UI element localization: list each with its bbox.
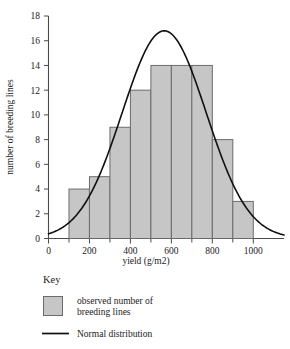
legend-swatch-observed [44,297,63,316]
histogram-figure: 024681012141618 02004006008001000 yield … [0,0,290,349]
legend-label-observed-line2: breeding lines [77,307,131,317]
histogram-bar [130,90,150,238]
chart-canvas: 024681012141618 02004006008001000 yield … [0,0,290,349]
legend-title: Key [43,274,61,285]
y-tick-label: 8 [35,135,40,145]
legend-label-normal: Normal distribution [77,329,152,339]
histogram-bar [69,189,89,238]
histogram-bar [89,177,109,239]
y-tick-label: 12 [31,86,41,96]
y-tick-label: 14 [31,61,41,71]
y-tick-label: 18 [31,11,41,21]
y-tick-label: 16 [31,36,41,46]
y-tick-label: 4 [35,184,40,194]
histogram-bar [110,127,130,238]
y-tick-label: 2 [35,209,40,219]
x-tick-label: 400 [123,246,138,256]
x-tick-label: 1000 [244,246,263,256]
histogram-bar [233,201,253,238]
y-tick-label: 6 [35,160,40,170]
histogram-bar [151,65,171,238]
x-tick-label: 600 [164,246,179,256]
x-tick-label: 800 [205,246,220,256]
legend-label-observed-line1: observed number of [77,296,154,306]
y-axis-title: number of breeding lines [5,79,15,175]
y-tick-label: 10 [31,110,41,120]
histogram-bar [212,140,232,239]
y-tick-label: 0 [35,234,40,244]
histogram-bar [192,65,212,238]
histogram-bar [171,65,191,238]
x-axis-title: yield (g/m2) [122,256,169,267]
x-tick-label: 200 [82,246,97,256]
x-tick-label: 0 [46,246,51,256]
